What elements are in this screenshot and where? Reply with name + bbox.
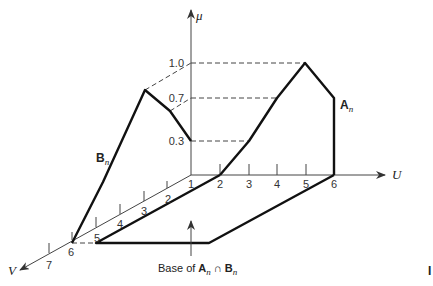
intersection-caption: Base of An ∩ Bn [158, 262, 238, 277]
u-axis-label: U [392, 167, 403, 182]
v-tick-5: 5 [94, 232, 100, 244]
intersection-base [96, 175, 334, 243]
b-n-label: Bn [96, 151, 110, 167]
u-tick-6: 6 [331, 178, 337, 190]
v-tick-6: 6 [68, 246, 74, 258]
u-tick-2: 2 [217, 178, 223, 190]
mu-tick-0-7: 0.7 [169, 92, 184, 104]
u-tick-4: 4 [274, 178, 280, 190]
v-tick-2: 2 [165, 193, 171, 205]
u-ticks [220, 164, 306, 175]
v-tick-3: 3 [141, 205, 147, 217]
projection-dashes [72, 63, 305, 243]
a-n-label: An [340, 98, 354, 114]
u-tick-5: 5 [303, 178, 309, 190]
v-tick-4: 4 [117, 218, 123, 230]
a-n-curve [220, 63, 334, 175]
v-axis [20, 175, 191, 270]
b-n-curve [72, 90, 191, 243]
mu-axis-label: μ [195, 8, 203, 23]
v-tick-7: 7 [46, 259, 52, 271]
v-axis-label: V [8, 263, 18, 278]
u-tick-3: 3 [246, 178, 252, 190]
membership-diagram: 1.0 0.7 0.3 1 2 3 4 5 6 2 3 4 5 6 7 μ U … [0, 0, 433, 286]
cropped-letter-fragment: I [428, 264, 431, 278]
u-tick-1: 1 [188, 178, 194, 190]
mu-tick-0-3: 0.3 [169, 135, 184, 147]
mu-tick-1-0: 1.0 [169, 57, 184, 69]
